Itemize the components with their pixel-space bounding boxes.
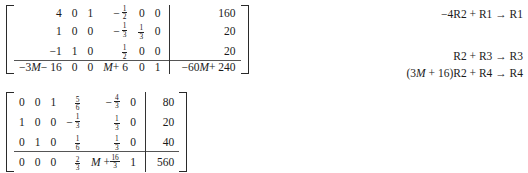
matrix-cell-fraction: 16: [74, 136, 81, 152]
matrix-cell-value: 1: [72, 45, 78, 57]
matrix-cell: 12: [98, 41, 133, 61]
matrix-cell-fraction: M + 163: [91, 154, 120, 170]
matrix-cell: 1: [46, 92, 62, 112]
matrix-cell: −13: [98, 21, 133, 41]
fraction-denominator: 6: [75, 144, 81, 151]
matrix-cell: 0: [14, 92, 30, 112]
matrix-cell: 23: [61, 152, 86, 172]
matrix-cell-value: 1: [155, 61, 161, 73]
matrix-cell: 16: [61, 132, 86, 152]
fraction-denominator: 6: [75, 104, 81, 111]
fraction: 163: [110, 154, 119, 170]
minus-sign: −: [66, 116, 73, 128]
matrix-row: 401−1200160: [14, 5, 241, 21]
matrix-cell-value: 0: [87, 45, 93, 57]
matrix-cell-value: 0: [35, 116, 41, 128]
matrix-cell: 0: [14, 132, 30, 152]
matrix-cell: 0: [150, 21, 170, 41]
matrix-cell-value: 0: [19, 156, 25, 168]
matrix-cell: 13: [86, 132, 125, 152]
fraction-denominator: 3: [114, 144, 120, 151]
matrix-cell-fraction: −13: [66, 114, 81, 130]
matrix-cell-fraction: −43: [106, 94, 121, 110]
fraction-denominator: 2: [122, 53, 128, 60]
matrix-cell-value: 0: [130, 96, 136, 108]
matrix-cell: −13: [61, 112, 86, 132]
matrix-cell-value: 1: [35, 136, 41, 148]
matrix-cell-value: −60M + 240: [181, 61, 235, 73]
matrix-cell: 13: [86, 112, 125, 132]
fraction-denominator: 3: [114, 102, 120, 109]
matrix-cell-value: −1: [49, 45, 61, 57]
matrix-cell-value: −3M − 16: [19, 61, 62, 73]
matrix-cell: 0: [67, 21, 83, 41]
matrix-cell: 1: [67, 41, 83, 61]
right-bracket-matrix-2: [179, 92, 187, 172]
matrix-cell-value: 0: [139, 45, 145, 57]
matrix-cell-fraction: 12: [121, 45, 128, 61]
matrix-cell-value: 4: [56, 7, 62, 19]
fraction-denominator: 3: [114, 124, 120, 131]
matrix-cell-value: 560: [157, 156, 174, 168]
matrix-cell-value: 0: [35, 96, 41, 108]
matrix-cell-value: 0: [87, 25, 93, 37]
matrix-cell: 56: [61, 92, 86, 112]
matrix-cell-value: 0: [130, 136, 136, 148]
minus-sign: −: [106, 96, 113, 108]
matrix-cell: 0: [133, 5, 150, 21]
matrix-cell: 80: [146, 92, 180, 112]
matrix-cell: 0: [67, 61, 83, 74]
fraction: 43: [114, 94, 120, 110]
left-bracket-matrix-2: [6, 92, 14, 172]
row-operation-line: (3M + 16)R2 + R4 → R4: [407, 68, 524, 80]
fraction: 13: [114, 135, 120, 151]
fraction: 16: [75, 135, 81, 151]
matrix-cell-value: 0: [19, 136, 25, 148]
matrix-simplex-tableau-after: 00156−43080100−1313020010161304000023M +…: [6, 92, 187, 172]
matrix-cell: 0: [46, 132, 62, 152]
matrix-cell-value: 20: [163, 116, 175, 128]
matrix-cell-value: M + 6: [103, 61, 128, 73]
matrix-cell-value: 1: [51, 96, 57, 108]
matrix-cell-value: 0: [51, 116, 57, 128]
matrix-cell: 4: [14, 5, 67, 21]
matrix-cell: 560: [146, 152, 180, 172]
fraction-denominator: 3: [75, 164, 81, 171]
matrix-cell: 1: [125, 152, 145, 172]
matrix-cell-fraction: 56: [74, 96, 81, 112]
minus-sign: −: [113, 7, 120, 19]
matrix-cell-fraction: −12: [113, 5, 128, 21]
fraction: 56: [75, 96, 81, 112]
matrix-simplex-tableau-before: 401−1200160100−1313020−110120020−3M − 16…: [6, 5, 249, 74]
matrix-cell: 0: [150, 41, 170, 61]
matrix-row: 0101613040: [14, 132, 179, 152]
left-bracket-matrix-1: [6, 5, 14, 74]
matrix-cell-value: 0: [72, 61, 78, 73]
matrix-cell: 0: [133, 41, 150, 61]
matrix-cell: 40: [146, 132, 180, 152]
fraction: 13: [138, 24, 144, 40]
matrix-cell-value: 1: [130, 156, 136, 168]
matrix-row: −3M − 1600M + 601−60M + 240: [14, 61, 241, 74]
fraction-denominator: 3: [122, 31, 128, 38]
matrix-cell: 160: [170, 5, 241, 21]
row-operation-line: R2 + R3 → R3: [453, 51, 523, 63]
fraction-denominator: 3: [75, 122, 81, 129]
matrix-cell-value: 0: [139, 7, 145, 19]
matrix-cell-value: 20: [224, 25, 236, 37]
matrix-cell: 0: [125, 112, 145, 132]
fraction-denominator: 3: [112, 162, 118, 169]
matrix-cell: 0: [67, 5, 83, 21]
fraction: 13: [75, 113, 81, 129]
matrix-1-table: 401−1200160100−1313020−110120020−3M − 16…: [14, 5, 241, 74]
matrix-cell: 1: [14, 112, 30, 132]
matrix-cell: 20: [170, 21, 241, 41]
matrix-2-table: 00156−43080100−1313020010161304000023M +…: [14, 92, 179, 172]
fraction: 13: [122, 22, 128, 38]
matrix-cell: −3M − 16: [14, 61, 67, 74]
matrix-cell-value: 0: [139, 61, 145, 73]
matrix-cell-value: 0: [72, 25, 78, 37]
fraction: 13: [114, 115, 120, 131]
matrix-cell: 0: [82, 61, 98, 74]
matrix-cell-value: 1: [87, 7, 93, 19]
